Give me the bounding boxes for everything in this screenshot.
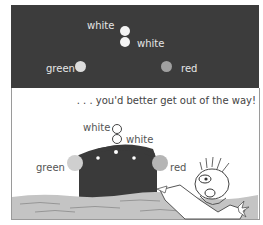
label-red-day: red <box>170 162 186 174</box>
green-light-day <box>67 155 83 171</box>
white-light-lower-day <box>113 135 122 144</box>
white-light-top-day <box>113 125 122 134</box>
red-light-day <box>152 155 168 171</box>
label-white-lower-day: white <box>126 134 153 146</box>
label-white-top-day: white <box>83 122 110 134</box>
label-green-day: green <box>36 162 65 174</box>
ship-illustration <box>0 0 263 225</box>
